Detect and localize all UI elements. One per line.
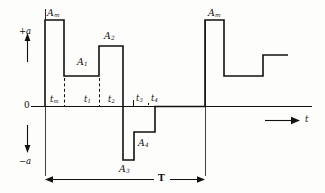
waveform-plot	[0, 0, 325, 193]
waveform-figure: +a −a 0 t Am A1 A2 A3 A4 Am tm t1 t2 t3 …	[0, 0, 325, 193]
amplitude-label-a1: A1	[77, 57, 88, 68]
amplitude-label-am-left: Am	[47, 8, 59, 19]
period-label: T	[158, 174, 165, 183]
time-label-tm: tm	[50, 95, 58, 104]
time-axis-arrow	[265, 117, 300, 124]
amplitude-label-am-right: Am	[208, 8, 220, 19]
y-axis-positive-label: +a	[19, 27, 31, 36]
y-axis-negative-label: −a	[19, 157, 31, 166]
time-label-t3: t3	[136, 94, 143, 103]
waveform-trace	[45, 20, 288, 160]
time-label-t2: t2	[108, 95, 115, 104]
positive-amplitude-arrow	[25, 33, 31, 62]
time-label-t4: t4	[151, 94, 158, 103]
x-axis-label: t	[305, 115, 308, 124]
time-label-t1: t1	[84, 95, 91, 104]
negative-amplitude-arrow	[25, 125, 31, 153]
amplitude-label-a4: A4	[138, 138, 149, 149]
amplitude-label-a3: A3	[119, 164, 130, 175]
zero-label: 0	[24, 101, 30, 110]
amplitude-label-a2: A2	[104, 31, 115, 42]
